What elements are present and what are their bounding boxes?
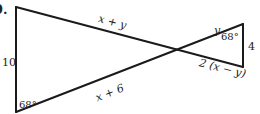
bowtie-triangles-diagram: 9. 10 x + y x + 6 y 2 (x − y) 4 68° 68° <box>0 0 260 114</box>
problem-number: 9. <box>0 2 8 17</box>
bottom-segment-label: x + 6 <box>94 82 126 105</box>
right-upper-segment-label: y <box>213 24 221 37</box>
angle-bottom-left-label: 68° <box>19 99 37 110</box>
left-side-label: 10 <box>2 56 16 69</box>
right-side-label: 4 <box>248 40 255 53</box>
right-lower-segment-label: 2 (x − y) <box>197 56 247 80</box>
angle-top-right-label: 68° <box>221 31 239 42</box>
